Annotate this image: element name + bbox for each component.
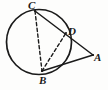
- vertex-point-B: [41, 70, 43, 72]
- figure-canvas: [0, 0, 108, 90]
- vertex-label-a: A: [94, 52, 101, 63]
- vertex-point-D: [65, 32, 67, 34]
- vertex-label-c: C: [28, 0, 35, 11]
- vertex-label-b: B: [39, 75, 46, 86]
- segment-CA: [35, 11, 93, 55]
- segment-CB-dashed: [35, 11, 42, 71]
- vertex-label-d: D: [68, 26, 76, 37]
- geometry-figure: C D B A: [0, 0, 108, 90]
